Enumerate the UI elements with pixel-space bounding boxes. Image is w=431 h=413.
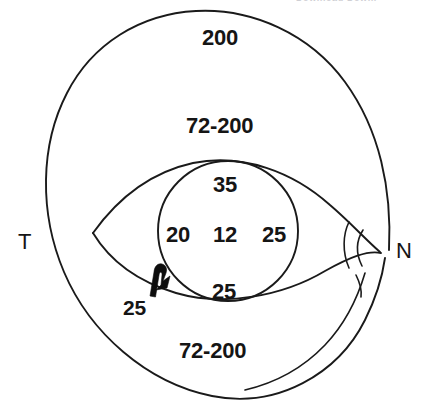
label-callout-limbus: 25: [123, 297, 146, 318]
eye-zone-diagram: Download Downl 200 72-200 72-200 35 20 1…: [0, 0, 431, 413]
label-iris-superior: 35: [213, 174, 237, 196]
label-iris-inferior: 25: [212, 281, 236, 303]
label-iris-center: 12: [213, 224, 237, 246]
label-outer-top: 200: [202, 27, 238, 49]
label-iris-temporal: 20: [166, 224, 190, 246]
caruncle-lower-tick: [356, 275, 361, 297]
label-iris-nasal: 25: [262, 224, 286, 246]
label-nasal-axis: N: [396, 240, 412, 262]
callout-arrow-icon: [150, 264, 170, 297]
label-temporal-axis: T: [18, 231, 31, 253]
label-mid-inferior: 72-200: [179, 340, 246, 362]
label-mid-superior: 72-200: [186, 115, 253, 137]
